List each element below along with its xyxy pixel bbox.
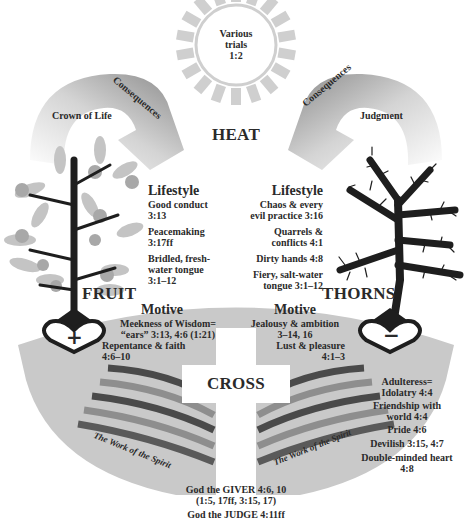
cross-label: CROSS	[182, 374, 290, 394]
lifestyle-right-heading: Lifestyle	[220, 183, 323, 199]
vice-item: Devilish 3:15, 4:7	[348, 438, 466, 449]
motive-right-line: Lust & pleasure	[245, 340, 345, 351]
sun-line-1: Various	[206, 28, 266, 39]
fruit-label: FRUIT	[82, 284, 136, 304]
motive-left-line: “ears” 3:13, 4:6 (1:21)	[108, 329, 228, 340]
motive-left-line: Meekness of Wisdom=	[108, 318, 228, 329]
heart-plus-symbol: +	[66, 325, 83, 349]
footer-text: God the GIVER 4:6, 10 (1:5, 17ff, 3:15, …	[156, 484, 316, 520]
lifestyle-right: Lifestyle Chaos & everyevil practice 3:1…	[220, 183, 323, 296]
footer-line: (1:5, 17ff, 3:15, 17)	[156, 495, 316, 506]
vice-item: Double-minded heart4:8	[348, 452, 466, 474]
consequence-arrow-left	[30, 74, 184, 170]
vice-item: Friendship withworld 4:4	[348, 400, 466, 422]
heart-minus-symbol: −	[383, 323, 400, 347]
judgment-label: Judgment	[360, 110, 403, 121]
footer-line: God the GIVER 4:6, 10	[156, 484, 316, 495]
motive-right-line: Jealousy & ambition	[245, 318, 345, 329]
sun-line-3: 1:2	[206, 50, 266, 61]
motive-right-line: 4:1–3	[245, 351, 345, 362]
sun-line-2: trials	[206, 39, 266, 50]
vice-item: Adulteress=Idolatry 4:4	[348, 376, 466, 398]
lifestyle-right-item: Fiery, salt-watertongue 3:1–12	[220, 269, 323, 291]
consequence-arrow-right	[288, 74, 442, 170]
thorns-label: THORNS	[322, 284, 396, 304]
motive-left: Motive Meekness of Wisdom= “ears” 3:13, …	[102, 302, 242, 362]
crown-of-life-label: Crown of Life	[52, 110, 112, 121]
sun-text: Various trials 1:2	[206, 28, 266, 61]
motive-left-line: Repentance & faith	[102, 340, 242, 351]
lifestyle-right-item: Chaos & everyevil practice 3:16	[220, 199, 323, 221]
lifestyle-right-item: Quarrels &conflicts 4:1	[220, 226, 323, 248]
heat-label: HEAT	[196, 125, 276, 145]
lifestyle-right-item: Dirty hands 4:8	[220, 253, 323, 264]
motive-right-line: 3–14, 16	[245, 329, 345, 340]
motive-left-heading: Motive	[112, 302, 212, 318]
motive-left-line: 4:6–10	[102, 351, 242, 362]
motive-right: Motive Jealousy & ambition 3–14, 16 Lust…	[245, 302, 345, 362]
motive-right-heading: Motive	[245, 302, 345, 318]
vices-list: Adulteress=Idolatry 4:4 Friendship withw…	[348, 376, 466, 479]
footer-line: God the JUDGE 4:11ff	[156, 509, 316, 520]
vice-item: Pride 4:6	[348, 424, 466, 435]
